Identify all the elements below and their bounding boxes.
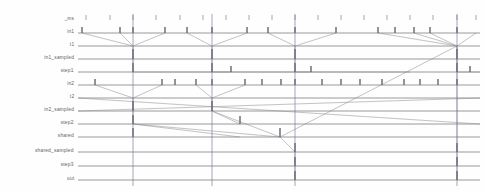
event-marker-in2-sampled[interactable] [132,101,134,111]
event-marker-in2[interactable] [174,79,176,85]
event-marker-in1[interactable] [267,27,269,33]
event-marker-step1[interactable] [211,63,213,72]
event-marker-shared[interactable] [279,128,281,137]
causality-arrow [133,124,240,137]
event-marker-in2[interactable] [340,79,342,85]
event-marker-out[interactable] [294,171,296,180]
event-marker-in1[interactable] [429,27,431,33]
event-marker-in1-sampled[interactable] [211,49,213,59]
causality-arrow [82,33,133,46]
event-marker-out[interactable] [456,171,458,180]
event-marker-in1[interactable] [456,27,458,33]
event-marker-step3[interactable] [294,157,296,166]
event-marker-in1[interactable] [377,27,379,33]
event-marker-in2[interactable] [280,79,282,85]
causality-arrow [187,33,212,46]
event-marker-in1[interactable] [246,27,248,33]
causality-arrow [378,33,457,46]
event-marker-in1-sampled[interactable] [294,49,296,59]
event-marker-in1[interactable] [413,27,415,33]
event-marker-in2[interactable] [195,79,197,85]
causality-arrow [196,85,212,98]
event-marker-step3[interactable] [456,157,458,166]
event-marker-in1[interactable] [294,27,296,33]
event-markers-group [81,27,471,180]
event-marker-step1[interactable] [230,66,232,72]
event-marker-in1[interactable] [186,27,188,33]
waveform-plot-area [0,0,485,192]
causality-arrow [212,85,245,98]
event-marker-step2[interactable] [239,116,241,124]
event-marker-step1[interactable] [310,66,312,72]
event-marker-in2[interactable] [321,79,323,85]
waveform-svg [0,0,485,192]
timing-diagram-canvas: _msin1t1in1_sampledstep1in2t2in2_sampled… [0,0,485,192]
causality-arrow [133,85,162,98]
event-marker-in1[interactable] [81,27,83,33]
event-marker-shared[interactable] [132,128,134,137]
arrows-group [78,33,480,180]
event-marker-shared-sampled[interactable] [294,143,296,152]
causality-arrow [212,111,240,124]
event-marker-in1[interactable] [132,27,134,33]
causality-arrow [280,137,295,152]
event-marker-step2[interactable] [132,115,134,124]
event-marker-step1[interactable] [294,63,296,72]
event-marker-in2[interactable] [161,79,163,85]
event-marker-in2[interactable] [437,79,439,85]
causality-arrow [133,33,165,46]
top-axis-ticks-group [86,15,476,20]
causality-arrow [268,33,295,46]
event-marker-shared-sampled[interactable] [456,143,458,152]
gridlines-group [78,33,480,180]
event-marker-in2[interactable] [359,79,361,85]
event-marker-in1[interactable] [211,27,213,33]
event-marker-in2[interactable] [261,79,263,85]
event-marker-in1-sampled[interactable] [456,49,458,59]
causality-arrow [280,46,457,137]
event-marker-in1[interactable] [164,27,166,33]
event-marker-in2[interactable] [381,79,383,85]
causality-arrow [133,124,280,137]
event-marker-in2[interactable] [419,79,421,85]
causality-arrow [457,33,476,46]
event-marker-in2-sampled[interactable] [211,101,213,111]
event-marker-in2[interactable] [294,79,296,85]
causality-arrow [212,33,247,46]
event-marker-in1-sampled[interactable] [132,49,134,59]
causality-arrow [78,98,480,111]
event-marker-step1[interactable] [469,66,471,72]
causality-arrow [95,85,133,98]
event-marker-step1[interactable] [132,63,134,72]
event-marker-in2[interactable] [94,79,96,85]
causality-arrow [414,33,457,46]
event-marker-in2[interactable] [403,79,405,85]
event-marker-step1[interactable] [456,63,458,72]
event-marker-in2[interactable] [244,79,246,85]
event-marker-in2[interactable] [211,79,213,85]
event-marker-in1[interactable] [394,27,396,33]
causality-arrow [295,33,336,46]
event-marker-in2[interactable] [456,79,458,85]
event-marker-in1[interactable] [119,27,121,33]
event-marker-in1[interactable] [335,27,337,33]
